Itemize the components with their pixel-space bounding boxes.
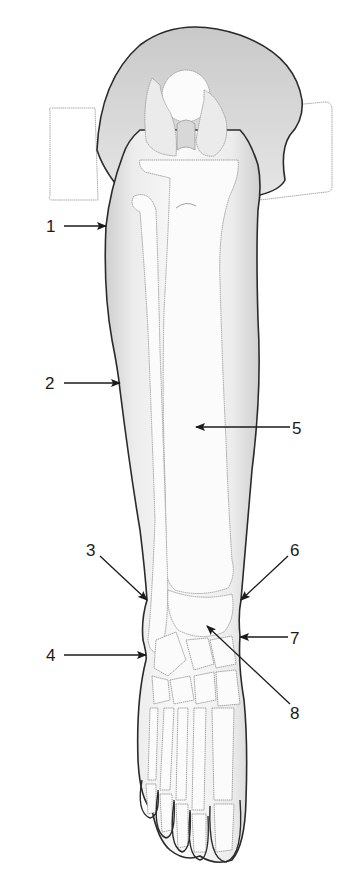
thigh-flap-left <box>49 108 98 200</box>
intercondylar-notch <box>177 120 195 150</box>
arrow-3 <box>100 556 147 600</box>
label-1: 1 <box>46 217 106 236</box>
label-7: 7 <box>240 629 299 648</box>
label-3-text: 3 <box>86 541 95 560</box>
arrow-6 <box>241 556 288 600</box>
leg-anatomy-diagram: 1 2 3 4 5 6 7 8 <box>0 0 347 876</box>
label-1-text: 1 <box>46 217 55 236</box>
label-4-text: 4 <box>46 646 55 665</box>
label-5-text: 5 <box>292 419 301 438</box>
label-6: 6 <box>241 541 299 600</box>
label-7-text: 7 <box>290 629 299 648</box>
label-3: 3 <box>86 541 147 600</box>
label-6-text: 6 <box>290 541 299 560</box>
label-2: 2 <box>45 374 120 393</box>
label-4: 4 <box>46 646 146 665</box>
label-2-text: 2 <box>45 374 54 393</box>
label-8-text: 8 <box>290 704 299 723</box>
